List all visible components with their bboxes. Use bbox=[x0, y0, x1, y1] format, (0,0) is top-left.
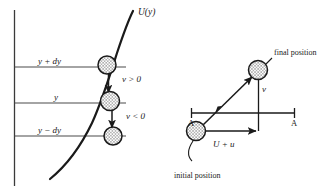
leader-initial-position bbox=[188, 141, 193, 161]
ball-upper bbox=[98, 56, 116, 74]
ball-lower bbox=[104, 127, 122, 145]
label-velocity-v: v bbox=[262, 85, 266, 94]
ball-final bbox=[249, 61, 268, 80]
label-section-a-right: A bbox=[291, 119, 297, 128]
label-potential-curve: U(y) bbox=[138, 8, 155, 18]
arrow-resultant-displacement bbox=[203, 77, 252, 125]
label-velocity-negative: v < 0 bbox=[126, 112, 145, 121]
label-section-a-left: A bbox=[188, 119, 194, 128]
label-initial-position: initial position bbox=[174, 172, 220, 180]
label-level-y-minus-dy: y − dy bbox=[38, 126, 61, 135]
label-velocity-positive: v > 0 bbox=[122, 75, 141, 84]
figure-canvas: y + dy y y − dy U(y) v > 0 v < 0 final p… bbox=[0, 0, 323, 195]
diagram-vector-layer bbox=[0, 0, 323, 195]
ball-middle bbox=[101, 92, 120, 111]
label-u-plus-u: U + u bbox=[213, 140, 235, 149]
label-level-y-plus-dy: y + dy bbox=[38, 57, 61, 66]
label-level-y: y bbox=[54, 93, 58, 102]
label-final-position: final position bbox=[274, 49, 316, 57]
potential-curve bbox=[50, 11, 133, 179]
